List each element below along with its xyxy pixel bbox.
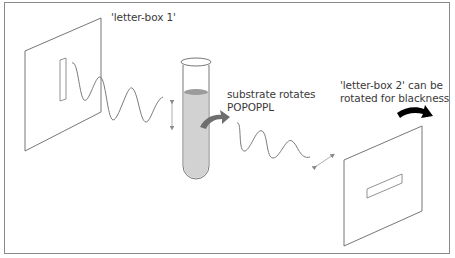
letter-box-2-slot [367, 174, 402, 198]
substrate-label: substrate rotates POPOPPL [227, 88, 315, 114]
rotation-arrow-black-icon [397, 105, 433, 118]
polarimeter-diagram [0, 0, 455, 258]
test-tube [181, 58, 211, 179]
letter-box-2-label-line1: 'letter-box 2' can be [340, 79, 449, 92]
light-wave-2 [237, 123, 310, 158]
letter-box-1-label: 'letter-box 1' [111, 11, 176, 24]
rotated-polarization-arrow [315, 155, 333, 167]
letter-box-2-label-line2: rotated for blackness [340, 92, 449, 105]
tube-rim [181, 58, 211, 66]
letter-box-2-label: 'letter-box 2' can be rotated for blackn… [340, 79, 449, 105]
letter-box-1-panel [25, 18, 101, 151]
light-wave-1 [72, 63, 163, 122]
substrate-label-line1: substrate rotates [227, 88, 315, 101]
substrate-label-line2: POPOPPL [227, 101, 315, 114]
letter-box-1-slot [60, 58, 66, 101]
letter-box-2-panel [344, 126, 422, 246]
liquid-surface [184, 89, 208, 95]
